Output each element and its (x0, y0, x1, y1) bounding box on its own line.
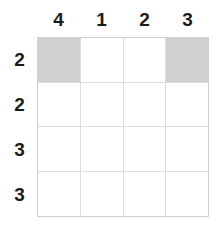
grid-cell-r1c2[interactable] (81, 38, 124, 83)
row-header-1: 2 (4, 37, 35, 82)
puzzle-grid[interactable] (37, 37, 209, 217)
column-header-3: 2 (123, 4, 166, 35)
grid-cell-r4c1[interactable] (38, 172, 81, 217)
column-header-1: 4 (37, 4, 80, 35)
row-header-3: 3 (4, 127, 35, 172)
grid-cell-r1c1[interactable] (38, 38, 81, 83)
grid-cell-r2c1[interactable] (38, 83, 81, 128)
grid-cell-r3c2[interactable] (81, 127, 124, 172)
grid-cell-r1c4[interactable] (166, 38, 208, 83)
grid-cell-r2c3[interactable] (124, 83, 167, 128)
column-header-4: 3 (166, 4, 209, 35)
grid-cell-r4c3[interactable] (124, 172, 167, 217)
nonogram-puzzle: 4123 2233 (0, 0, 221, 227)
grid-cell-r2c2[interactable] (81, 83, 124, 128)
column-header-2: 1 (80, 4, 123, 35)
column-header-strip: 4123 (37, 4, 209, 35)
grid-cell-r3c3[interactable] (124, 127, 167, 172)
grid-row (38, 172, 208, 217)
row-header-strip: 2233 (4, 37, 35, 217)
grid-row (38, 83, 208, 128)
grid-cell-r2c4[interactable] (166, 83, 208, 128)
grid-cell-r4c2[interactable] (81, 172, 124, 217)
grid-cell-r3c1[interactable] (38, 127, 81, 172)
row-header-2: 2 (4, 82, 35, 127)
grid-cell-r3c4[interactable] (166, 127, 208, 172)
grid-row (38, 127, 208, 172)
grid-cell-r4c4[interactable] (166, 172, 208, 217)
row-header-4: 3 (4, 172, 35, 217)
grid-cell-r1c3[interactable] (124, 38, 167, 83)
grid-row (38, 38, 208, 83)
